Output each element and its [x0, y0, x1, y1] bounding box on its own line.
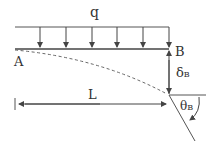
delta-subscript: B: [184, 70, 190, 79]
point-a-label: A: [14, 55, 23, 68]
delta-symbol: δ: [176, 65, 184, 80]
point-b-label: B: [175, 45, 185, 58]
length-label: L: [88, 88, 97, 101]
theta-subscript: B: [187, 103, 193, 112]
deflection-label: δB: [176, 66, 190, 79]
rotation-label: θB: [180, 100, 193, 112]
distributed-load-arrows: [40, 27, 169, 47]
load-label: q: [90, 5, 99, 19]
